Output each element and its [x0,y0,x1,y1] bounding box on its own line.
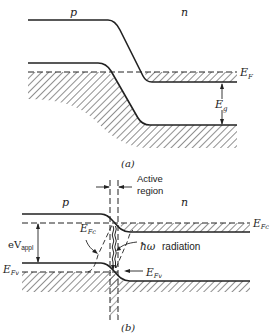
panel-a: p n EF Eg (a) [28,6,254,169]
radiation-label: radiation [162,241,200,252]
efv-label-mid: EFv [145,266,162,280]
active-region-arrow-left [104,185,110,189]
efc-label-mid: EFc [79,222,96,236]
radiation-wavy-line-2 [115,226,117,268]
n-region-label-a: n [181,6,188,19]
n-region-label-b: n [181,196,188,209]
p-region-label-a: p [70,6,77,19]
caption-b: (b) [121,322,135,333]
fermi-level-label: EF [239,66,254,81]
panel-b: Active region p n eVa [2,173,269,333]
conduction-hatch-n-b [118,223,250,232]
caption-a: (a) [121,158,135,169]
band-gap-label: Eg [214,98,228,113]
valence-hatch-b [22,272,250,292]
radiation-wavy-line-1 [112,226,114,268]
efc-label-right: EFc [252,217,269,231]
active-region-arrow-right [118,185,124,189]
pn-junction-band-diagram: p n EF Eg (a) Active region p n [0,0,276,336]
active-region-label-line2: region [137,185,163,196]
conduction-band-hatch-n-a [145,72,237,82]
efv-label-left: EFv [2,263,19,277]
photon-energy-symbol: ħω [140,240,156,252]
active-region-label-line1: Active [137,173,163,184]
applied-voltage-label: eVappl [8,239,34,252]
p-region-label-b: p [62,196,69,209]
